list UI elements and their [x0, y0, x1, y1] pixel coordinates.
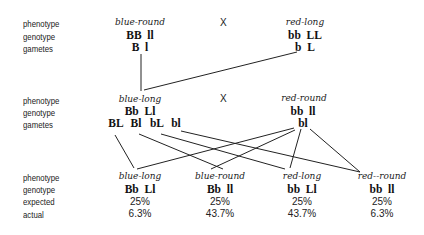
label-genotype: genotype — [23, 184, 55, 195]
offspring-phenotype-3: red-long — [283, 171, 321, 181]
f1-gamete-Bl: Bl — [131, 117, 142, 129]
offspring-expected-3: 25% — [292, 196, 312, 207]
line-parent2-to-f1 — [144, 52, 297, 90]
cross-symbol: X — [220, 93, 227, 104]
f1-gamete-BL: BL — [108, 117, 123, 129]
offspring-expected-4: 25% — [372, 196, 392, 207]
label-gametes: gametes — [23, 119, 53, 130]
f1-gamete-bL: bL — [150, 117, 164, 129]
label-actual: actual — [23, 209, 44, 220]
offspring-actual-3: 43.7% — [288, 208, 316, 219]
offspring-phenotype-1: blue-long — [119, 171, 162, 181]
label-phenotype: phenotype — [23, 172, 59, 183]
line-bl-to-red-round — [181, 131, 360, 172]
offspring-expected-2: 25% — [210, 196, 230, 207]
f1-phenotype-2: red-round — [281, 93, 327, 103]
offspring-actual-1: 6.3% — [129, 208, 152, 219]
offspring-genotype-2: Bb ll — [207, 183, 233, 195]
f1-gamete-bl-2: bl — [298, 117, 308, 129]
offspring-expected-1: 25% — [130, 196, 150, 207]
parent2-phenotype: red-long — [286, 17, 324, 27]
line-f1bl-to-blue-round — [211, 130, 295, 169]
line-BL-to-blue-long — [115, 135, 134, 168]
cross-symbol: X — [220, 17, 227, 28]
offspring-phenotype-4: red--round — [358, 171, 407, 181]
label-phenotype: phenotype — [23, 95, 59, 106]
parent1-gametes: B l — [132, 41, 149, 53]
offspring-genotype-4: bb ll — [370, 183, 395, 195]
parent1-genotype: BB ll — [126, 29, 153, 41]
offspring-actual-4: 6.3% — [371, 208, 394, 219]
offspring-genotype-3: bb Ll — [287, 183, 316, 195]
label-genotype: genotype — [23, 107, 55, 118]
label-expected: expected — [23, 196, 55, 207]
line-f1bl-to-blue-long — [137, 128, 294, 169]
offspring-actual-2: 43.7% — [206, 208, 234, 219]
label-genotype: genotype — [23, 31, 55, 42]
f1-genotype-1: Bb Ll — [125, 105, 156, 117]
parent2-gametes: b L — [295, 41, 315, 53]
f1-genotype-2: bb ll — [291, 105, 316, 117]
f1-gamete-bl: bl — [171, 117, 181, 129]
label-phenotype: phenotype — [23, 18, 59, 29]
parent1-phenotype: blue-round — [115, 17, 165, 27]
label-gametes: gametes — [23, 43, 53, 54]
parent2-genotype: bb LL — [288, 29, 322, 41]
offspring-phenotype-2: blue-round — [195, 171, 245, 181]
offspring-genotype-1: Bb Ll — [125, 183, 156, 195]
line-f1bl-to-red-long — [290, 129, 301, 168]
line-f1bl-to-red-round — [310, 129, 360, 172]
f1-phenotype-1: blue-long — [119, 94, 162, 104]
